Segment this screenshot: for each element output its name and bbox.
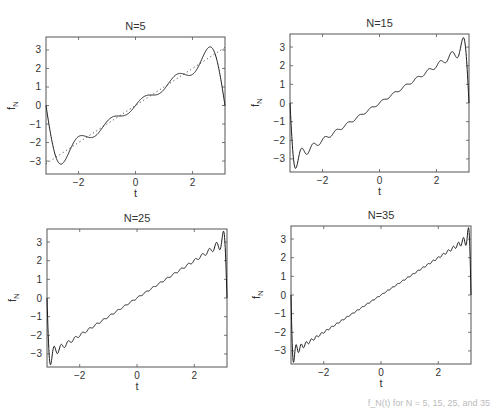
y-tick-label: 2 <box>35 63 41 74</box>
y-tick-label: −2 <box>30 137 42 148</box>
x-tick-label: 0 <box>378 367 384 378</box>
y-tick-label: 3 <box>280 234 286 245</box>
plot-area: −202−3−2−10123 <box>46 37 225 174</box>
plot-title: N=5 <box>46 20 225 32</box>
plot-title: N=15 <box>290 17 469 29</box>
x-tick-label: 0 <box>377 175 383 186</box>
y-axis-label: fN <box>249 98 264 107</box>
plot-panel-3: N=25tfN−202−3−2−10123 <box>47 229 227 367</box>
series-line <box>47 231 227 364</box>
x-tick-label: 2 <box>436 367 442 378</box>
y-tick-label: −2 <box>274 135 286 146</box>
x-axis-label: t <box>290 185 469 197</box>
figure-caption: f_N(t) for N = 5, 15, 25, and 35 <box>0 398 490 408</box>
y-tick-label: 0 <box>35 100 41 111</box>
y-tick-label: 0 <box>36 293 42 304</box>
y-tick-label: 0 <box>279 98 285 109</box>
y-tick-label: 0 <box>280 290 286 301</box>
plot-title: N=25 <box>47 212 227 224</box>
y-tick-label: −1 <box>31 311 43 322</box>
y-axis-label: fN <box>250 290 265 299</box>
y-tick-label: 1 <box>279 79 285 90</box>
x-tick-label: −2 <box>317 175 329 186</box>
y-tick-label: −3 <box>274 153 286 164</box>
y-tick-label: −1 <box>275 308 287 319</box>
y-axis-label: fN <box>5 101 20 110</box>
y-tick-label: 2 <box>279 60 285 71</box>
plot-area: −202−3−2−10123 <box>47 229 227 367</box>
y-tick-label: 3 <box>36 237 42 248</box>
x-axis-label: t <box>46 187 225 199</box>
y-tick-label: 2 <box>36 255 42 266</box>
y-tick-label: 1 <box>280 271 286 282</box>
y-tick-label: 1 <box>36 274 42 285</box>
plot-panel-4: N=35tfN−202−3−2−10123 <box>291 226 471 364</box>
x-axis-label: t <box>47 380 227 392</box>
y-tick-label: 1 <box>35 81 41 92</box>
y-tick-label: −1 <box>274 116 286 127</box>
x-axis-label: t <box>291 377 471 389</box>
x-tick-label: −2 <box>73 177 85 188</box>
x-tick-label: 0 <box>133 177 139 188</box>
y-tick-label: −2 <box>275 327 287 338</box>
x-tick-label: 2 <box>190 177 196 188</box>
y-tick-label: −3 <box>275 345 287 356</box>
plot-panel-2: N=15tfN−202−3−2−10123 <box>290 34 469 172</box>
x-tick-label: 0 <box>134 370 140 381</box>
y-tick-label: −3 <box>31 348 43 359</box>
x-tick-label: 2 <box>192 370 198 381</box>
x-tick-label: 2 <box>434 175 440 186</box>
series-line <box>291 228 471 363</box>
plot-area: −202−3−2−10123 <box>290 34 469 172</box>
series-line <box>290 38 469 169</box>
y-tick-label: −2 <box>31 330 43 341</box>
plot-area: −202−3−2−10123 <box>291 226 471 364</box>
plot-title: N=35 <box>291 209 471 221</box>
x-tick-label: −2 <box>74 370 86 381</box>
series-line <box>46 47 225 164</box>
y-tick-label: 3 <box>35 44 41 55</box>
y-tick-label: 2 <box>280 252 286 263</box>
y-tick-label: −3 <box>30 156 42 167</box>
y-tick-label: −1 <box>30 119 42 130</box>
y-axis-label: fN <box>6 293 21 302</box>
x-tick-label: −2 <box>318 367 330 378</box>
y-tick-label: 3 <box>279 42 285 53</box>
plot-panel-1: N=5tfN−202−3−2−10123 <box>46 37 225 174</box>
